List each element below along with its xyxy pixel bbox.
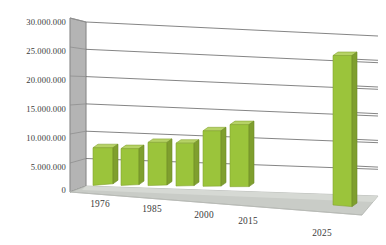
bar-1995[interactable] [176, 140, 199, 186]
x-tick-label-2025: 2025 [312, 228, 332, 238]
column-chart-3d: 30.000.000 25.000.000 20.000.000 15.000.… [0, 0, 386, 245]
y-tick-label: 5.000.000 [31, 162, 66, 172]
x-tick-label-2015: 2015 [238, 216, 258, 226]
x-tick-label-1985: 1985 [142, 204, 162, 214]
bar-1976-a[interactable] [93, 144, 118, 185]
y-tick-label: 15.000.000 [26, 104, 66, 114]
y-tick-label: 30.000.000 [26, 17, 66, 27]
y-tick-label: 0 [62, 185, 66, 195]
y-tick-label: 20.000.000 [26, 75, 66, 85]
chart-left-wall [70, 18, 86, 192]
x-tick-label-1976: 1976 [90, 199, 110, 209]
bar-2000[interactable] [203, 127, 226, 186]
bar-2015[interactable] [230, 121, 254, 187]
x-tick-label-2000: 2000 [194, 210, 214, 220]
bar-1980[interactable] [121, 145, 144, 185]
bar-2025[interactable] [333, 52, 357, 207]
chart-container: 30.000.000 25.000.000 20.000.000 15.000.… [0, 0, 386, 245]
bar-1985[interactable] [148, 139, 172, 186]
y-axis-labels: 30.000.000 25.000.000 20.000.000 15.000.… [26, 17, 66, 195]
y-tick-label: 25.000.000 [26, 46, 66, 56]
y-tick-label: 10.000.000 [26, 133, 66, 143]
